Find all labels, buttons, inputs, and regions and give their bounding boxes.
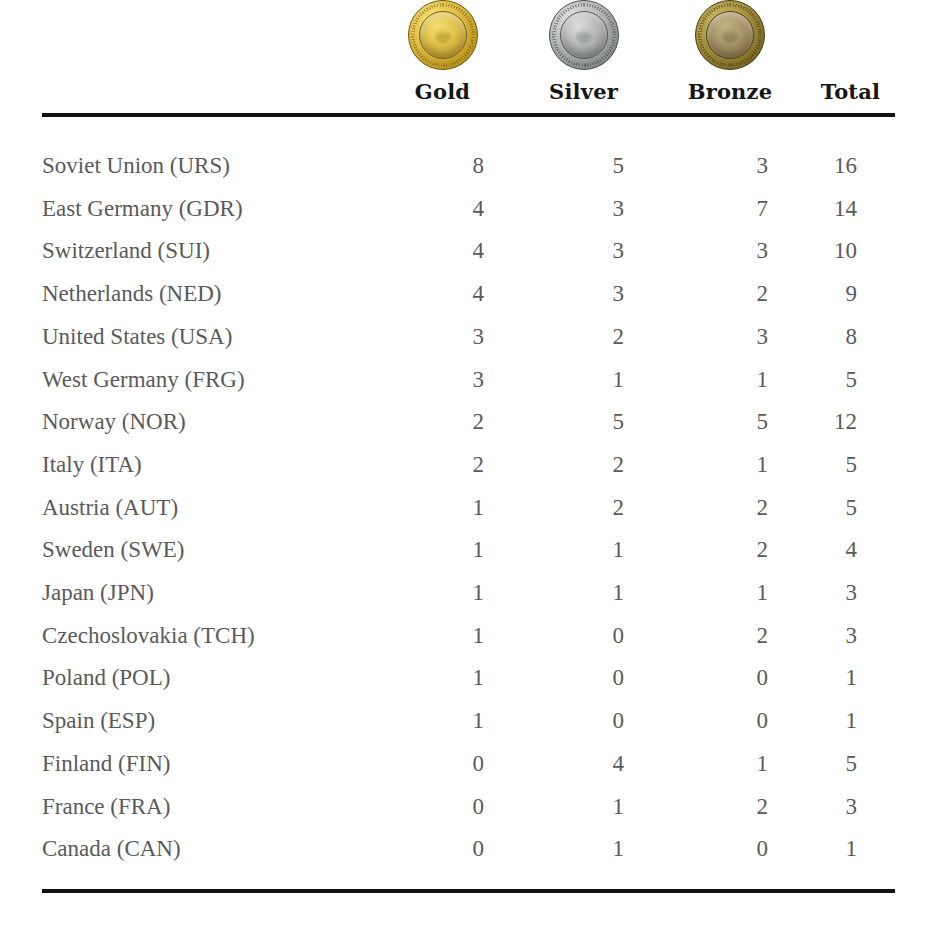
gold-header-stack: Gold <box>372 0 513 113</box>
cell-bronze: 0 <box>654 700 806 743</box>
cell-total: 4 <box>806 529 895 572</box>
cell-silver: 4 <box>513 743 654 786</box>
cell-country: Italy (ITA) <box>42 444 372 487</box>
cell-gold: 1 <box>372 657 513 700</box>
cell-gold: 3 <box>372 316 513 359</box>
table-row[interactable]: Norway (NOR)25512 <box>42 401 895 444</box>
cell-country: France (FRA) <box>42 786 372 829</box>
cell-gold: 0 <box>372 743 513 786</box>
cell-bronze: 2 <box>654 487 806 530</box>
cell-total: 3 <box>806 786 895 829</box>
cell-total: 1 <box>806 657 895 700</box>
cell-gold: 4 <box>372 230 513 273</box>
header-cell-gold[interactable]: Gold <box>372 0 513 113</box>
cell-silver: 1 <box>513 786 654 829</box>
footer-rule-gap <box>42 871 895 889</box>
footer-rule-cell <box>42 871 895 893</box>
cell-bronze: 0 <box>654 657 806 700</box>
cell-country: West Germany (FRG) <box>42 359 372 402</box>
header-row: Gold Silver <box>42 0 895 113</box>
cell-silver: 1 <box>513 572 654 615</box>
cell-total: 1 <box>806 700 895 743</box>
footer-divider-rule <box>42 889 895 893</box>
cell-gold: 1 <box>372 700 513 743</box>
cell-country: Norway (NOR) <box>42 401 372 444</box>
cell-silver: 5 <box>513 145 654 188</box>
header-rule-cell <box>42 113 895 145</box>
header-cell-bronze[interactable]: Bronze <box>654 0 806 113</box>
cell-country: Spain (ESP) <box>42 700 372 743</box>
silver-medal-inner-disc <box>560 11 608 59</box>
cell-silver: 3 <box>513 273 654 316</box>
cell-total: 8 <box>806 316 895 359</box>
cell-country: Poland (POL) <box>42 657 372 700</box>
cell-bronze: 1 <box>654 359 806 402</box>
cell-gold: 0 <box>372 786 513 829</box>
table-header: Gold Silver <box>42 0 895 145</box>
cell-bronze: 0 <box>654 828 806 871</box>
cell-total: 16 <box>806 145 895 188</box>
medal-table-wrapper: Gold Silver <box>42 0 895 893</box>
cell-silver: 0 <box>513 657 654 700</box>
cell-country: Netherlands (NED) <box>42 273 372 316</box>
bronze-header-stack: Bronze <box>654 0 806 113</box>
cell-bronze: 1 <box>654 444 806 487</box>
gold-medal-globe-relief <box>434 26 452 44</box>
table-body: Soviet Union (URS)85316East Germany (GDR… <box>42 145 895 871</box>
cell-total: 10 <box>806 230 895 273</box>
cell-total: 5 <box>806 444 895 487</box>
silver-medal-globe-relief <box>575 26 593 44</box>
cell-silver: 1 <box>513 529 654 572</box>
cell-bronze: 5 <box>654 401 806 444</box>
cell-gold: 1 <box>372 615 513 658</box>
column-header-total: Total <box>821 81 881 102</box>
table-row[interactable]: Sweden (SWE)1124 <box>42 529 895 572</box>
cell-bronze: 1 <box>654 743 806 786</box>
cell-bronze: 2 <box>654 273 806 316</box>
table-row[interactable]: United States (USA)3238 <box>42 316 895 359</box>
cell-total: 3 <box>806 615 895 658</box>
table-row[interactable]: Finland (FIN)0415 <box>42 743 895 786</box>
header-rule-row <box>42 113 895 145</box>
cell-country: East Germany (GDR) <box>42 188 372 231</box>
cell-country: Switzerland (SUI) <box>42 230 372 273</box>
table-row[interactable]: Italy (ITA)2215 <box>42 444 895 487</box>
cell-country: Japan (JPN) <box>42 572 372 615</box>
column-header-bronze: Bronze <box>688 81 773 102</box>
table-row[interactable]: West Germany (FRG)3115 <box>42 359 895 402</box>
cell-total: 9 <box>806 273 895 316</box>
table-row[interactable]: Switzerland (SUI)43310 <box>42 230 895 273</box>
column-header-gold: Gold <box>415 81 470 102</box>
cell-country: Finland (FIN) <box>42 743 372 786</box>
table-row[interactable]: Poland (POL)1001 <box>42 657 895 700</box>
header-cell-silver[interactable]: Silver <box>513 0 654 113</box>
cell-gold: 8 <box>372 145 513 188</box>
cell-silver: 0 <box>513 615 654 658</box>
cell-gold: 2 <box>372 444 513 487</box>
table-row[interactable]: Spain (ESP)1001 <box>42 700 895 743</box>
header-cell-total[interactable]: Total <box>806 0 895 113</box>
bronze-medal-inner-disc <box>706 11 754 59</box>
cell-silver: 3 <box>513 230 654 273</box>
table-row[interactable]: Czechoslovakia (TCH)1023 <box>42 615 895 658</box>
cell-total: 14 <box>806 188 895 231</box>
cell-gold: 0 <box>372 828 513 871</box>
table-row[interactable]: Austria (AUT)1225 <box>42 487 895 530</box>
table-row[interactable]: Netherlands (NED)4329 <box>42 273 895 316</box>
header-cell-country <box>42 0 372 113</box>
header-rule-gap <box>42 117 895 145</box>
table-row[interactable]: Japan (JPN)1113 <box>42 572 895 615</box>
table-row[interactable]: East Germany (GDR)43714 <box>42 188 895 231</box>
cell-bronze: 2 <box>654 786 806 829</box>
cell-country: United States (USA) <box>42 316 372 359</box>
cell-total: 1 <box>806 828 895 871</box>
table-row[interactable]: France (FRA)0123 <box>42 786 895 829</box>
cell-gold: 3 <box>372 359 513 402</box>
cell-bronze: 3 <box>654 145 806 188</box>
cell-country: Canada (CAN) <box>42 828 372 871</box>
table-row[interactable]: Soviet Union (URS)85316 <box>42 145 895 188</box>
table-row[interactable]: Canada (CAN)0101 <box>42 828 895 871</box>
bronze-medal-globe-relief <box>721 26 739 44</box>
cell-silver: 1 <box>513 359 654 402</box>
column-header-silver: Silver <box>549 81 618 102</box>
